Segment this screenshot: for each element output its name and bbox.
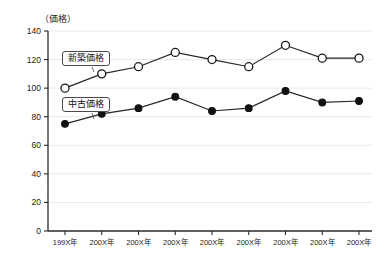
data-point-marker: [209, 108, 216, 115]
x-axis-tick-label: 200X年: [236, 237, 262, 247]
x-axis-tick-label: 200X年: [163, 237, 189, 247]
y-axis-tick-label: 80: [32, 112, 42, 122]
x-axis-tick-group: 199X年200X年200X年200X年200X年200X年200X年200X年…: [53, 231, 373, 247]
data-point-marker: [135, 105, 142, 112]
data-point-marker: [282, 88, 289, 95]
x-axis-tick-label: 200X年: [310, 237, 336, 247]
data-point-marker: [62, 120, 69, 127]
y-axis-tick-label: 60: [32, 140, 42, 150]
data-point-marker: [355, 54, 363, 62]
y-axis-tick-label: 40: [32, 169, 42, 179]
data-point-marker: [318, 54, 326, 62]
data-point-marker: [245, 105, 252, 112]
data-point-marker: [282, 41, 290, 49]
x-axis-tick-label: 200X年: [347, 237, 373, 247]
y-axis-tick-label: 120: [27, 55, 41, 65]
leader-line-shinchiku: [92, 67, 94, 72]
data-point-marker: [172, 93, 179, 100]
x-axis-tick-label: 200X年: [89, 237, 115, 247]
y-axis-tick-label: 100: [27, 83, 41, 93]
x-axis-tick-label: 200X年: [126, 237, 152, 247]
y-axis-tick-label: 140: [27, 26, 41, 36]
legend-label-chuko: 中古価格: [62, 97, 110, 112]
y-axis-tick-label: 20: [32, 197, 42, 207]
legend-label-shinchiku: 新築価格: [62, 51, 110, 66]
x-axis-tick-label: 200X年: [200, 237, 226, 247]
data-point-marker: [135, 63, 143, 71]
price-trend-line-chart: （価格） 020406080100120140 199X年200X年200X年2…: [0, 0, 382, 271]
data-point-marker: [319, 99, 326, 106]
x-axis-tick-label: 200X年: [273, 237, 299, 247]
data-point-marker: [208, 56, 216, 64]
data-point-marker: [356, 98, 363, 105]
y-axis-tick-label: 0: [36, 226, 41, 236]
data-point-marker: [245, 63, 253, 71]
x-axis-tick-label: 199X年: [53, 237, 79, 247]
data-point-marker: [98, 70, 106, 78]
data-point-marker: [61, 84, 69, 92]
data-point-marker: [171, 48, 179, 56]
chart-plot-area: 020406080100120140 199X年200X年200X年200X年2…: [0, 0, 382, 271]
y-axis-tick-group: 020406080100120140: [27, 26, 48, 236]
